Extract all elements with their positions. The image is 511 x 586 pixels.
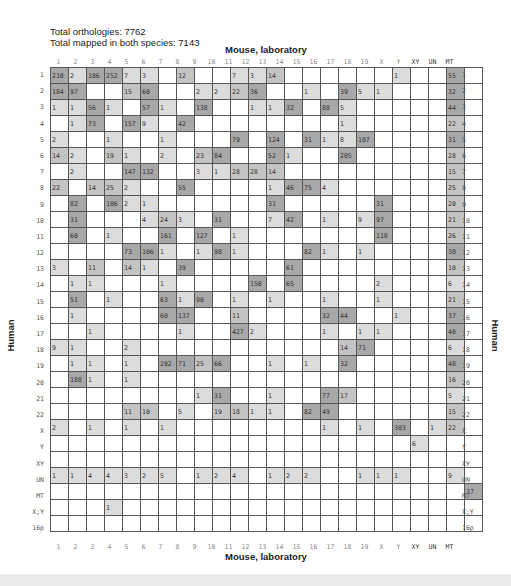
column-label: UN <box>424 543 441 551</box>
grid-cell: 3 <box>123 468 141 484</box>
grid-cell <box>105 452 123 468</box>
row-label: 3 <box>462 99 492 115</box>
grid-cell <box>87 228 105 244</box>
grid-cell <box>249 244 267 260</box>
grid-cell <box>105 116 123 132</box>
grid-cell <box>69 132 87 148</box>
grid-row: 22142525514675425 <box>51 180 483 196</box>
grid-cell: 57 <box>141 100 159 116</box>
column-label: 3 <box>84 543 101 551</box>
row-label: 7 <box>462 164 492 180</box>
grid-cell <box>231 148 249 164</box>
column-label: 8 <box>169 543 186 551</box>
grid-cell <box>429 516 447 532</box>
grid-cell <box>87 148 105 164</box>
grid-cell <box>141 388 159 404</box>
grid-cell <box>123 228 141 244</box>
grid-cell <box>285 436 303 452</box>
grid-cell <box>375 180 393 196</box>
grid-row: 11427211140 <box>51 324 483 340</box>
grid-cell: 1 <box>141 196 159 212</box>
grid-row: 210218625273127314155 <box>51 68 483 84</box>
grid-cell <box>51 228 69 244</box>
grid-row: 8210621313120 <box>51 196 483 212</box>
grid-cell <box>411 244 429 260</box>
grid-cell <box>69 484 87 500</box>
grid-cell <box>429 132 447 148</box>
grid-cell <box>375 100 393 116</box>
grid-cell: 1 <box>159 276 177 292</box>
grid-cell <box>321 276 339 292</box>
grid-cell <box>303 500 321 516</box>
grid-cell <box>321 260 339 276</box>
grid-cell: 32 <box>321 308 339 324</box>
grid-cell <box>69 436 87 452</box>
grid-cell <box>177 84 195 100</box>
grid-cell <box>339 516 357 532</box>
grid-cell <box>357 116 375 132</box>
grid-cell: 1 <box>87 420 105 436</box>
row-label: 9 <box>462 197 492 213</box>
grid-cell <box>141 356 159 372</box>
grid-cell: 4 <box>321 180 339 196</box>
grid-cell <box>51 116 69 132</box>
grid-cell: 75 <box>303 180 321 196</box>
grid-cell <box>249 148 267 164</box>
grid-cell: 71 <box>357 340 375 356</box>
grid-cell <box>123 276 141 292</box>
grid-cell <box>285 324 303 340</box>
grid-cell <box>285 372 303 388</box>
grid-row: 11443251241221119 <box>51 468 483 484</box>
grid-cell <box>303 212 321 228</box>
grid-cell <box>303 324 321 340</box>
column-label: 11 <box>220 58 237 66</box>
grid-cell <box>393 340 411 356</box>
grid-cell <box>69 324 87 340</box>
grid-cell <box>231 180 249 196</box>
grid-cell <box>141 500 159 516</box>
grid-cell <box>339 196 357 212</box>
grid-cell <box>105 276 123 292</box>
grid-cell <box>321 356 339 372</box>
grid-cell <box>321 372 339 388</box>
grid-cell <box>177 516 195 532</box>
grid-cell <box>87 292 105 308</box>
column-label: 3 <box>84 58 101 66</box>
grid-cell: 1 <box>267 388 285 404</box>
row-label: 11 <box>462 229 492 245</box>
grid-cell <box>267 452 285 468</box>
grid-cell <box>105 484 123 500</box>
grid-cell: 5 <box>177 404 195 420</box>
grid-cell: 12 <box>177 68 195 84</box>
grid-cell: 14 <box>267 68 285 84</box>
grid-cell <box>321 228 339 244</box>
grid-cell: 6 <box>411 436 429 452</box>
grid-cell <box>213 100 231 116</box>
grid-cell <box>141 308 159 324</box>
grid-cell <box>267 260 285 276</box>
grid-cell <box>51 324 69 340</box>
grid-cell <box>249 420 267 436</box>
grid-cell <box>429 260 447 276</box>
grid-cell <box>123 452 141 468</box>
row-label: 22 <box>462 407 492 423</box>
grid-cell <box>141 436 159 452</box>
row-label: 12 <box>462 245 492 261</box>
grid-cell <box>159 500 177 516</box>
grid-cell <box>105 436 123 452</box>
grid-cell: 8 <box>339 132 357 148</box>
grid-cell <box>393 276 411 292</box>
grid-cell <box>141 180 159 196</box>
grid-cell: 88 <box>321 100 339 116</box>
grid-cell: 39 <box>177 260 195 276</box>
grid-row <box>51 452 483 468</box>
grid-cell <box>339 452 357 468</box>
column-label: 19 <box>356 543 373 551</box>
grid-cell: 97 <box>69 84 87 100</box>
grid-cell <box>429 356 447 372</box>
grid-cell <box>87 212 105 228</box>
grid-cell: 1 <box>159 132 177 148</box>
grid-cell <box>177 372 195 388</box>
grid-cell <box>177 244 195 260</box>
grid-cell <box>249 308 267 324</box>
